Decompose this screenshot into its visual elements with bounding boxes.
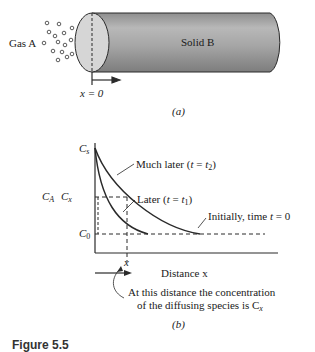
- gas-a-label: Gas A: [9, 38, 36, 49]
- direction-arrow-icon: [92, 72, 120, 85]
- x-axis-label: Distance x: [161, 268, 208, 279]
- solid-b-cylinder: [75, 13, 280, 72]
- y-label-cs: Cs: [79, 143, 89, 156]
- caption-a: (a): [172, 106, 185, 117]
- y-label-cx: Cx: [61, 191, 72, 204]
- x-tick-label: x: [124, 257, 129, 268]
- gas-molecules-icon: [42, 21, 74, 62]
- annotation-line-2: of the diffusing species is Cx: [137, 300, 263, 313]
- figure-caption: Figure 5.5: [12, 339, 69, 351]
- origin-label: x = 0: [80, 88, 103, 99]
- curve-label-later: Later (t = t1): [137, 194, 192, 207]
- curve-label-much-later: Much later (t = t2): [136, 159, 216, 172]
- curve-label-initial: Initially, time t = 0: [208, 211, 290, 222]
- caption-b: (b): [172, 319, 185, 330]
- annotation-line-1: At this distance the concentration: [128, 287, 275, 298]
- solid-b-label: Solid B: [181, 37, 214, 48]
- y-label-ca: CA: [42, 191, 54, 204]
- y-label-c0: C0: [79, 228, 90, 241]
